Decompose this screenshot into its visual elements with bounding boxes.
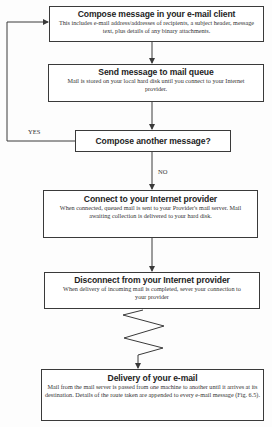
step-description: Mail from the mail server is passed from… xyxy=(42,383,263,398)
step-description: When connected, queued mail is sent to y… xyxy=(44,204,257,219)
decision-title: Compose another message? xyxy=(76,136,230,146)
step-description: This includes e-mail address/addresses o… xyxy=(50,19,263,34)
edge-label-yes: YES xyxy=(28,128,40,135)
step-compose-message: Compose message in your e-mail client Th… xyxy=(49,6,264,42)
decision-compose-another: Compose another message? xyxy=(75,130,231,152)
flowchart-canvas: Compose message in your e-mail client Th… xyxy=(0,0,272,427)
edge-label-no: NO xyxy=(158,168,167,175)
step-connect-provider: Connect to your Internet provider When c… xyxy=(43,190,258,238)
step-description: Mail is stored on your local hard disk u… xyxy=(49,77,263,92)
step-title: Delivery of your e-mail xyxy=(42,373,263,383)
step-title: Compose message in your e-mail client xyxy=(50,9,263,19)
step-disconnect-provider: Disconnect from your Internet provider W… xyxy=(44,272,260,309)
step-description: When delivery of incoming mail is comple… xyxy=(45,285,259,300)
step-send-to-queue: Send message to mail queue Mail is store… xyxy=(48,64,264,102)
step-title: Connect to your Internet provider xyxy=(44,194,257,204)
step-delivery: Delivery of your e-mail Mail from the ma… xyxy=(41,369,264,421)
step-title: Disconnect from your Internet provider xyxy=(45,275,259,285)
step-title: Send message to mail queue xyxy=(49,67,263,77)
